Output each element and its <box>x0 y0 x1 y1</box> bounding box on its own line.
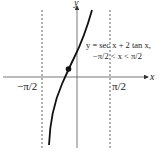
graph: y x −π/2 π/2 y = sec x + 2 tan x, −π/2 <… <box>0 0 161 157</box>
tick-left: −π/2 <box>17 80 37 92</box>
y-axis-label: y <box>73 0 79 8</box>
x-axis-label: x <box>149 71 155 82</box>
equation-line2: −π/2 < x < π/2 <box>93 51 142 61</box>
tick-right: π/2 <box>112 80 126 92</box>
function-curve <box>49 10 92 145</box>
equation-line1: y = sec x + 2 tan x, <box>86 40 151 50</box>
marked-point <box>66 66 72 72</box>
